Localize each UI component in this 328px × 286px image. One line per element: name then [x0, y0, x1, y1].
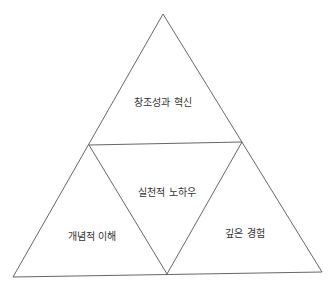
section-bottom-left-label: 개념적 이해 [68, 230, 116, 242]
mid-horizontal-edge [89, 142, 242, 145]
pyramid-diagram: 창조성과 혁신 실천적 노하우 개념적 이해 깊은 경험 [0, 0, 328, 286]
inner-left-edge [89, 145, 167, 274]
section-bottom-right-label: 깊은 경험 [225, 227, 264, 239]
section-center-label: 실천적 노하우 [138, 186, 195, 198]
section-top-label: 창조성과 혁신 [134, 97, 191, 108]
inner-right-edge [167, 142, 242, 274]
pyramid-outline [13, 14, 322, 277]
